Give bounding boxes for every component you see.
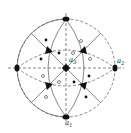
open-pole [58,81,61,84]
stereographic-projection-diagram [0,0,131,133]
threefold-axis-upper-right [79,46,87,54]
open-pole [80,40,83,43]
threefold-axis-upper-left [45,46,53,54]
open-pole [72,52,75,55]
axis-label-a1: a1 [65,120,72,128]
open-pole [45,96,48,99]
filled-pole [73,81,76,84]
threefold-axis-lower-left [45,82,53,90]
fourfold-axis-left [15,65,20,72]
filled-pole [40,58,43,61]
threefold-axis-lower-right [79,82,87,90]
open-pole [89,58,92,61]
filled-pole [88,75,91,78]
axis-label-a2: a2 [117,58,124,66]
filled-pole [45,39,48,42]
fourfold-axis-top [63,17,70,22]
filled-pole [85,96,88,99]
open-pole [42,75,45,78]
filled-pole [58,52,61,55]
axis-label-a3: a3 [69,57,76,65]
